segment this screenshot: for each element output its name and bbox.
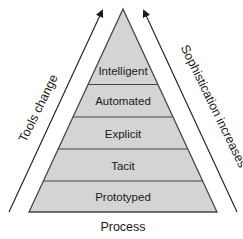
pyramid-diagram: Intelligent Automated Explicit Tacit Pro… bbox=[0, 0, 243, 239]
level-label-intelligent: Intelligent bbox=[98, 65, 148, 77]
level-label-automated: Automated bbox=[95, 95, 151, 107]
level-label-tacit: Tacit bbox=[111, 160, 135, 172]
level-label-prototyped: Prototyped bbox=[95, 191, 151, 203]
level-label-explicit: Explicit bbox=[105, 128, 142, 140]
base-label-process: Process bbox=[100, 220, 145, 234]
left-arrow-label: Tools change bbox=[16, 72, 61, 144]
diagram-canvas: Intelligent Automated Explicit Tacit Pro… bbox=[0, 0, 243, 239]
